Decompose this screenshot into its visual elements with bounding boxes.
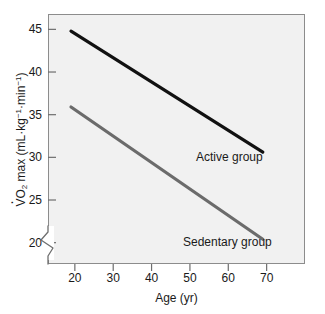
series-line-sedentary <box>71 107 263 239</box>
y-tick-marks <box>48 29 56 242</box>
series-annotation-active: Active group <box>196 150 263 164</box>
x-tick-marks <box>75 264 267 271</box>
y-axis-break-icon <box>41 226 54 264</box>
series-annotation-sedentary: Sedentary group <box>183 235 272 249</box>
chart-canvas <box>0 0 325 314</box>
chart-figure: 45 40 35 30 25 20 20 30 40 50 60 70 Age … <box>0 0 325 314</box>
series-line-active <box>71 31 263 152</box>
